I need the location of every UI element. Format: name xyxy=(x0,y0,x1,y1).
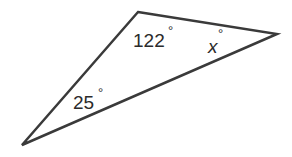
angle-top-label: 122 xyxy=(133,30,165,51)
angle-bottom-left-degree: ° xyxy=(98,85,103,100)
angle-top-degree: ° xyxy=(168,23,173,38)
triangle-diagram: 122 ° x ° 25 ° xyxy=(0,0,292,157)
angle-right-degree: ° xyxy=(218,26,223,41)
angle-bottom-left-label: 25 xyxy=(73,92,94,113)
